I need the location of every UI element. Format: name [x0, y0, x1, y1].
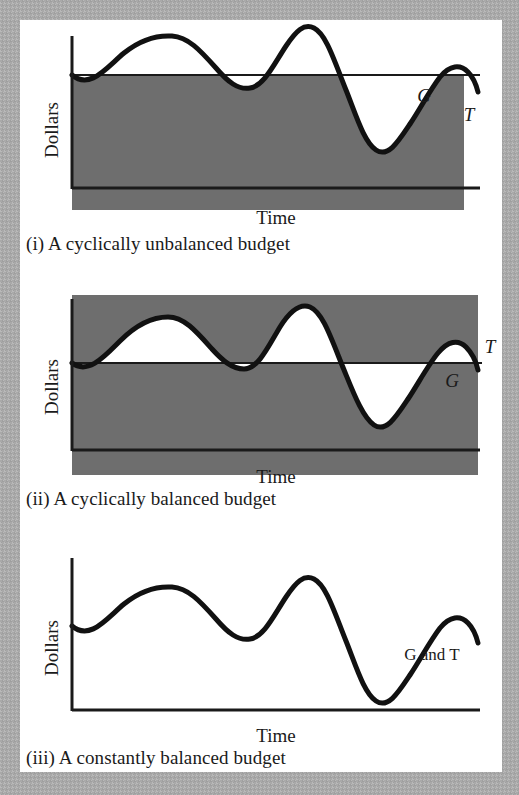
- panel-ii-label-t: T: [485, 336, 497, 357]
- panel-i-label-g: G: [417, 85, 431, 106]
- panel-i-caption: (i) A cyclically unbalanced budget: [26, 233, 290, 255]
- panel-iii-plot: Dollars Time G and T: [20, 530, 502, 748]
- panel-iii: Dollars Time G and T (iii) A constantly …: [20, 530, 502, 775]
- panel-ii-label-g: G: [445, 370, 459, 391]
- panel-i-x-axis-label: Time: [256, 207, 295, 228]
- panel-i-label-t: T: [464, 104, 476, 125]
- panel-ii-y-axis-label: Dollars: [41, 359, 62, 415]
- panel-iii-gt-curve: [72, 578, 478, 704]
- panel-ii-plot: Dollars Time T G: [20, 275, 502, 493]
- panel-i: Dollars Time G T (i) A cyclically unbala…: [20, 20, 502, 270]
- panel-iii-caption: (iii) A constantly balanced budget: [26, 747, 286, 769]
- panel-i-plot: Dollars Time G T: [20, 20, 502, 238]
- figure-page: Dollars Time G T (i) A cyclically unbala…: [20, 20, 502, 772]
- panel-i-y-axis-label: Dollars: [41, 102, 62, 158]
- panel-ii-x-axis-label: Time: [256, 466, 295, 487]
- panel-i-shaded-region: [72, 75, 472, 215]
- panel-ii-caption: (ii) A cyclically balanced budget: [26, 488, 276, 510]
- panel-iii-y-axis-label: Dollars: [41, 620, 62, 676]
- panel-iii-label-g-and-t: G and T: [404, 645, 460, 664]
- panel-iii-x-axis-label: Time: [256, 725, 295, 746]
- panel-ii: Dollars Time T G (ii) A cyclically balan…: [20, 275, 502, 525]
